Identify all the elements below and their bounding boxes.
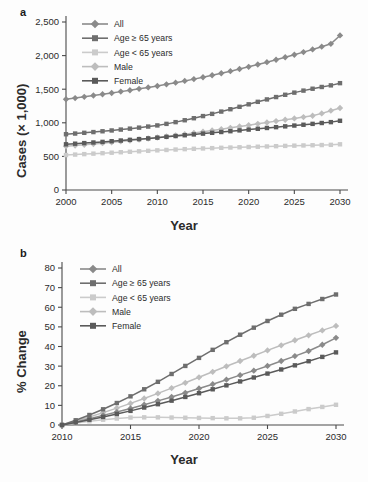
y-tick-label: 1,500 [35,84,59,95]
series-marker [256,145,260,149]
series-marker [251,353,257,359]
series-marker [137,137,141,141]
series-marker [196,385,202,391]
series-marker [252,325,256,329]
series-marker [292,337,298,343]
series-marker [183,364,187,368]
series-marker [210,112,214,116]
x-tick-label: 2030 [329,196,350,207]
series-marker [228,129,232,133]
legend-marker [89,265,98,274]
series-marker [183,133,187,137]
series-marker [192,132,196,136]
series-marker [183,147,187,151]
series-marker [100,151,104,155]
series-marker [282,117,288,123]
series-marker [329,83,333,87]
series-marker [306,302,310,306]
series-marker [265,97,269,101]
series-marker [63,96,69,102]
series-marker [211,387,215,391]
series-marker [223,363,229,369]
series-marker [64,142,68,146]
series-marker [278,342,284,348]
series-marker [274,144,278,148]
y-tick-label: 50 [44,321,55,332]
x-tick-label: 2010 [147,196,168,207]
series-marker [196,374,202,380]
series-marker [119,150,123,154]
series-marker [252,375,256,379]
series-marker [173,147,177,151]
series-marker [309,46,315,52]
legend-marker [91,62,100,71]
series-marker [74,420,78,424]
series-marker [338,81,342,85]
series-marker [237,128,241,132]
series-marker [109,151,113,155]
series-marker [163,81,169,87]
series-marker [319,43,325,49]
series-marker [137,149,141,153]
legend-marker [90,323,96,329]
y-tick-label: 1,000 [35,117,59,128]
y-tick-label: 500 [43,151,59,162]
series-marker [156,415,160,419]
series-marker [91,130,95,134]
series-marker [156,380,160,384]
series-marker [265,414,269,418]
series-marker [237,105,241,109]
series-marker [141,395,147,401]
series-marker [219,109,223,113]
series-marker [60,423,64,427]
series-marker [201,146,205,150]
series-marker [109,139,113,143]
legend-marker [92,78,98,84]
series-marker [333,335,339,341]
series-marker [128,150,132,154]
series-marker [142,387,146,391]
series-marker [291,115,297,121]
series-marker [183,118,187,122]
series-marker [292,353,298,359]
figure-container: a 05001,0001,5002,0002,50020002005201020… [0,0,368,482]
series-marker [265,144,269,148]
legend-label: All [112,264,122,274]
series-marker [224,340,228,344]
series-marker [200,74,206,80]
series-marker [209,72,215,78]
series-marker [310,87,314,91]
series-marker [218,70,224,76]
series-marker [252,416,256,420]
x-tick-label: 2000 [55,196,76,207]
series-marker [119,127,123,131]
series-marker [210,369,216,375]
series-marker [293,363,297,367]
series-marker [293,409,297,413]
series-marker [228,145,232,149]
y-tick-label: 2,500 [35,16,59,27]
x-tick-label: 2025 [284,196,305,207]
series-marker [182,78,188,84]
series-marker [283,124,287,128]
series-marker [256,127,260,131]
series-marker [73,152,77,156]
series-marker [118,88,124,94]
series-marker [172,80,178,86]
series-marker [264,347,270,353]
series-marker [293,307,297,311]
series-marker [173,134,177,138]
series-marker [236,66,242,72]
panel-a-plot: 05001,0001,5002,0002,5002000200520102015… [0,0,368,212]
series-marker [197,356,201,360]
series-marker [128,415,132,419]
series-marker [338,142,342,146]
series-marker [155,135,159,139]
panel-a: a 05001,0001,5002,0002,50020002005201020… [0,0,368,241]
legend-label: All [114,19,124,29]
series-marker [237,372,243,378]
y-tick-label: 70 [44,282,55,293]
series-marker [81,94,87,100]
y-tick-label: 40 [44,341,55,352]
series-marker [238,379,242,383]
